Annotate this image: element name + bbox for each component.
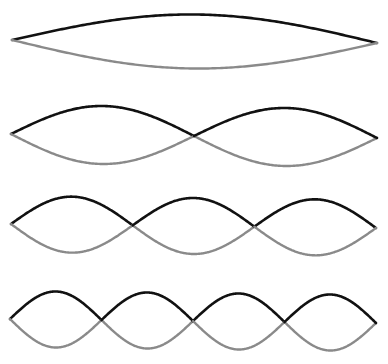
dark-wave-segment [133,198,255,227]
light-wave-segment [12,40,377,69]
dark-wave-segment [12,14,377,43]
light-wave-segment [285,322,377,351]
harmonic-4-wave [10,292,376,351]
harmonic-1-wave [12,14,377,68]
dark-wave-segment [102,293,194,322]
light-wave-segment [254,227,376,256]
light-wave-segment [10,319,102,348]
light-wave-segment [193,321,285,350]
light-wave-segment [11,224,133,253]
dark-wave-segment [193,294,285,323]
dark-wave-segment [254,199,376,228]
dark-wave-segment [10,292,102,321]
dark-wave-segment [194,108,377,138]
standing-waves-diagram [0,0,388,364]
dark-wave-segment [11,197,133,226]
dark-wave-segment [285,295,377,324]
light-wave-segment [194,136,377,166]
light-wave-segment [11,134,194,164]
harmonic-2-wave [11,106,377,166]
light-wave-segment [133,225,255,254]
light-wave-segment [102,320,194,349]
harmonic-3-wave [11,197,376,256]
dark-wave-segment [11,106,194,136]
